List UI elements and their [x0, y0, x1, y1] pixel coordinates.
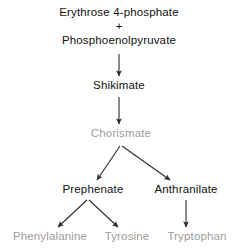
substrates-group: Erythrose 4-phosphate + Phosphoenolpyruv…	[59, 5, 179, 48]
pathway-diagram: Erythrose 4-phosphate + Phosphoenolpyruv…	[0, 0, 237, 251]
node-phenylalanine: Phenylalanine	[13, 230, 87, 243]
arrow-chorismate-to-prephenate	[97, 146, 120, 180]
node-tyrosine: Tyrosine	[105, 230, 150, 243]
arrow-prephenate-to-tyrosine	[89, 200, 118, 227]
node-anthranilate: Anthranilate	[154, 183, 217, 196]
arrow-prephenate-to-phenylalanine	[58, 200, 87, 227]
arrow-chorismate-to-anthranilate	[122, 146, 170, 180]
node-shikimate: Shikimate	[93, 79, 145, 92]
node-phosphoenolpyruvate: Phosphoenolpyruvate	[59, 33, 179, 48]
node-erythrose-4-phosphate: Erythrose 4-phosphate	[59, 5, 179, 20]
node-chorismate: Chorismate	[91, 127, 151, 140]
node-prephenate: Prephenate	[63, 183, 124, 196]
plus-sign: +	[59, 20, 179, 33]
node-tryptophan: Tryptophan	[167, 230, 226, 243]
